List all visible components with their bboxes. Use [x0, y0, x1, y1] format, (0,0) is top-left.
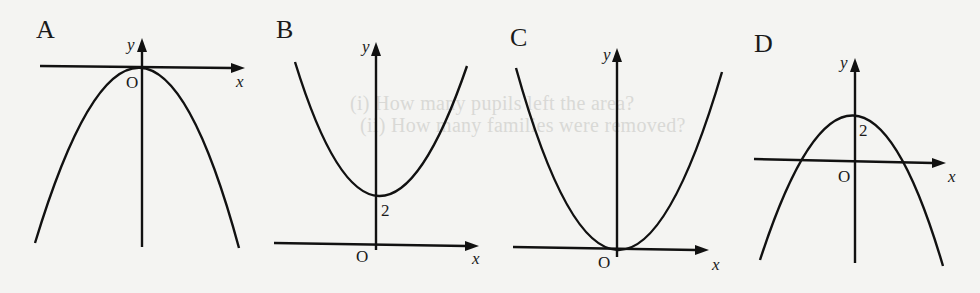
panel-label-b: B — [276, 15, 293, 44]
graph-panel-c: C y x O — [510, 23, 722, 274]
origin-label: O — [356, 247, 368, 266]
panel-label-c: C — [510, 23, 527, 52]
graph-panel-d: D y x O 2 — [754, 29, 956, 266]
y-axis-arrow-icon — [612, 48, 622, 62]
x-axis — [274, 243, 466, 246]
parabola-curve — [295, 62, 467, 196]
graph-panel-a: A y x O — [35, 15, 245, 248]
x-axis-label: x — [235, 72, 244, 91]
panel-label-d: D — [754, 29, 773, 58]
origin-label: O — [126, 73, 138, 92]
y-axis-label: y — [125, 35, 135, 54]
origin-label: O — [598, 253, 610, 272]
parabola-curve — [516, 68, 722, 250]
x-axis-label: x — [711, 255, 720, 274]
y-axis-label: y — [360, 37, 370, 56]
parabola-options-figure: A y x O B y x O 2 C y x O D — [0, 0, 980, 293]
panel-label-a: A — [36, 15, 55, 44]
y-axis-label: y — [601, 45, 611, 64]
y-axis-arrow-icon — [137, 38, 147, 52]
x-axis-label: x — [471, 249, 480, 268]
origin-label: O — [838, 167, 850, 186]
x-axis-arrow-icon — [932, 158, 946, 168]
y-intercept-label: 2 — [381, 201, 390, 220]
x-axis — [754, 159, 933, 163]
y-axis-arrow-icon — [371, 42, 381, 56]
parabola-curve — [760, 115, 943, 266]
x-axis-arrow-icon — [695, 245, 709, 255]
graph-panel-b: B y x O 2 — [274, 15, 480, 268]
y-intercept-label: 2 — [859, 121, 868, 140]
y-axis-label: y — [838, 53, 848, 72]
y-axis-arrow-icon — [850, 58, 860, 72]
parabola-curve — [35, 68, 239, 248]
x-axis-label: x — [947, 167, 956, 186]
